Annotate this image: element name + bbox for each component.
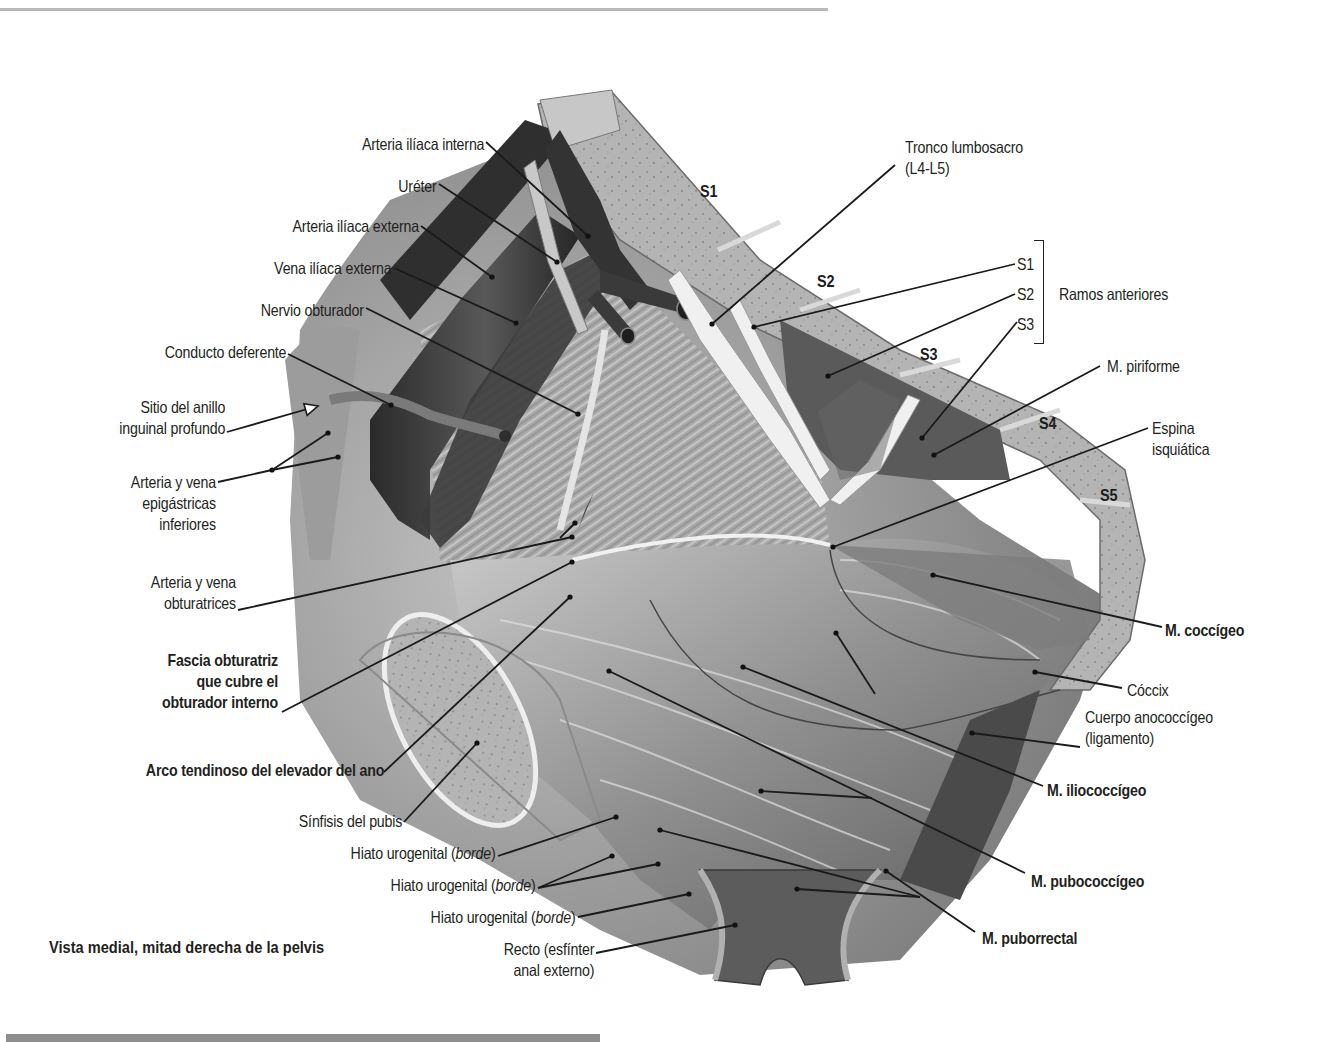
label-line: Arteria ilíaca interna [362, 134, 484, 155]
label-coccix: Cóccix [1127, 680, 1169, 701]
label-line: Hiato urogenital (borde) [431, 907, 576, 928]
label-arteria-iliaca-interna: Arteria ilíaca interna [362, 134, 484, 155]
label-line: que cubre el [162, 671, 278, 692]
figure-caption: Vista medial, mitad derecha de la pelvis [49, 938, 324, 958]
bone-label-s5: S5 [1100, 487, 1118, 505]
label-m-coccigeo: M. coccígeo [1165, 620, 1244, 641]
label-line: Cuerpo anococcígeo [1085, 707, 1213, 728]
label-line: Arteria y vena [131, 472, 216, 493]
label-line: Hiato urogenital (borde) [351, 843, 496, 864]
label-line: Vena ilíaca externa [275, 258, 392, 279]
label-conducto-deferente: Conducto deferente [164, 342, 286, 363]
label-hiato-urogenital-1: Hiato urogenital (borde) [351, 843, 496, 864]
label-recto: Recto (esfínteranal externo) [504, 939, 594, 981]
label-m-piriforme: M. piriforme [1107, 356, 1180, 377]
bone-label-s1: S1 [700, 183, 718, 201]
ramos-anteriores-label: Ramos anteriores [1059, 284, 1168, 305]
label-hiato-urogenital-3: Hiato urogenital (borde) [431, 907, 576, 928]
label-arteria-vena-epigastricas: Arteria y venaepigástricasinferiores [131, 472, 216, 535]
label-m-puborrectal: M. puborrectal [982, 928, 1077, 949]
label-line: anal externo) [504, 960, 594, 981]
label-ramo-s1: S1 [1017, 254, 1034, 275]
label-line: Uréter [399, 176, 437, 197]
label-m-pubococcigeo: M. pubococcígeo [1031, 871, 1144, 892]
label-line: Arteria y vena [151, 572, 236, 593]
label-ramo-s2: S2 [1017, 284, 1034, 305]
label-line: S3 [1017, 314, 1034, 335]
label-line: epigástricas [131, 493, 216, 514]
label-line: Cóccix [1127, 680, 1169, 701]
label-line: Tronco lumbosacro [905, 137, 1023, 158]
label-line: Arteria ilíaca externa [293, 216, 419, 237]
label-sinfisis-pubis: Sínfisis del pubis [299, 811, 402, 832]
label-arteria-vena-obturatrices: Arteria y venaobturatrices [151, 572, 236, 614]
label-line: Arco tendinoso del elevador del ano [146, 760, 384, 781]
label-line: Recto (esfínter [504, 939, 594, 960]
label-line: Fascia obturatriz [162, 650, 278, 671]
bottom-rule [6, 1034, 600, 1042]
label-ramo-s3: S3 [1017, 314, 1034, 335]
label-ureter: Uréter [399, 176, 437, 197]
label-fascia-obturatriz: Fascia obturatrizque cubre elobturador i… [162, 650, 278, 713]
label-m-iliococcigeo: M. iliococcígeo [1047, 780, 1146, 801]
label-line: M. puborrectal [982, 928, 1077, 949]
label-arco-tendinoso: Arco tendinoso del elevador del ano [146, 760, 384, 781]
label-line: obturatrices [151, 593, 236, 614]
label-sitio-anillo-inguinal: Sitio del anilloinguinal profundo [119, 397, 225, 439]
label-tronco-lumbosacro: Tronco lumbosacro(L4-L5) [905, 137, 1023, 179]
label-hiato-urogenital-2: Hiato urogenital (borde) [391, 875, 536, 896]
label-line: M. iliococcígeo [1047, 780, 1146, 801]
label-line: Sitio del anillo [119, 397, 225, 418]
label-line: (L4-L5) [905, 158, 1023, 179]
label-line: Conducto deferente [164, 342, 286, 363]
label-line: obturador interno [162, 692, 278, 713]
label-cuerpo-anococcigeo: Cuerpo anococcígeo(ligamento) [1085, 707, 1213, 749]
label-line: M. pubococcígeo [1031, 871, 1144, 892]
label-vena-iliaca-externa: Vena ilíaca externa [275, 258, 392, 279]
label-line: Espina [1152, 418, 1209, 439]
bone-label-s2: S2 [817, 273, 835, 291]
label-line: Nervio obturador [261, 300, 364, 321]
label-line: Sínfisis del pubis [299, 811, 402, 832]
label-line: M. coccígeo [1165, 620, 1244, 641]
label-line: S1 [1017, 254, 1034, 275]
bone-label-s3: S3 [920, 346, 938, 364]
label-line: S2 [1017, 284, 1034, 305]
label-line: inguinal profundo [119, 418, 225, 439]
label-nervio-obturador: Nervio obturador [261, 300, 364, 321]
label-arteria-iliaca-externa: Arteria ilíaca externa [293, 216, 419, 237]
bone-label-s4: S4 [1039, 415, 1057, 433]
label-espina-isquiatica: Espinaisquiática [1152, 418, 1209, 460]
label-line: isquiática [1152, 439, 1209, 460]
label-line: Hiato urogenital (borde) [391, 875, 536, 896]
label-line: (ligamento) [1085, 728, 1213, 749]
ramos-anteriores-bracket [1034, 240, 1044, 344]
label-line: inferiores [131, 514, 216, 535]
label-line: M. piriforme [1107, 356, 1180, 377]
